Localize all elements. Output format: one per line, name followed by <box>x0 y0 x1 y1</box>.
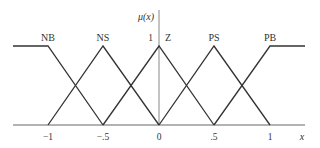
series-ns <box>48 46 159 125</box>
x-tick: 0 <box>157 132 162 142</box>
x-axis-label: x <box>299 131 305 142</box>
x-tick: 1 <box>268 132 273 142</box>
x-tick: −.5 <box>97 132 110 142</box>
label-z: Z <box>165 32 171 43</box>
membership-function-chart: NB NS Z PS PB μ(x) 1 −1 −.5 0 .5 1 x <box>0 0 320 148</box>
x-tick: −1 <box>43 132 53 142</box>
label-nb: NB <box>41 32 55 43</box>
series-ps <box>159 46 270 125</box>
x-tick: .5 <box>210 132 217 142</box>
y-tick-1: 1 <box>148 33 153 43</box>
y-axis-label: μ(x) <box>137 11 155 23</box>
label-ns: NS <box>97 32 110 43</box>
series-pb <box>214 46 305 125</box>
label-pb: PB <box>264 32 277 43</box>
label-ps: PS <box>208 32 219 43</box>
series-nb <box>13 46 103 125</box>
